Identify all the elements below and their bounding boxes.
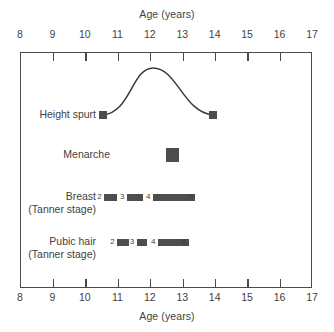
axis-tick-top-8: 8 — [17, 28, 23, 40]
tick-mark-bottom-15 — [247, 279, 248, 287]
stage-number-breast-5: 5 — [188, 193, 192, 201]
tick-mark-bottom-14 — [215, 279, 216, 287]
tick-mark-top-14 — [215, 53, 216, 61]
tick-mark-top-16 — [280, 53, 281, 61]
axis-tick-top-9: 9 — [50, 28, 56, 40]
stage-number-breast-2: 2 — [97, 193, 101, 201]
puberty-timeline-chart: Age (years) 891011121314151617 891011121… — [0, 0, 334, 332]
tick-mark-top-12 — [150, 53, 151, 61]
axis-tick-bottom-16: 16 — [274, 291, 286, 303]
axis-tick-top-14: 14 — [209, 28, 221, 40]
tick-mark-top-9 — [53, 53, 54, 61]
axis-tick-bottom-17: 17 — [306, 291, 318, 303]
stage-number-pubic-hair-2: 2 — [110, 238, 114, 246]
axis-tick-top-16: 16 — [274, 28, 286, 40]
tick-mark-bottom-12 — [150, 279, 151, 287]
tick-mark-top-10 — [85, 53, 86, 61]
stage-number-pubic-hair-5: 5 — [182, 238, 186, 246]
axis-tick-top-13: 13 — [176, 28, 188, 40]
axis-tick-bottom-13: 13 — [176, 291, 188, 303]
tick-mark-bottom-16 — [280, 279, 281, 287]
tick-mark-bottom-13 — [183, 279, 184, 287]
row-label-height-spurt: Height spurt — [39, 108, 96, 121]
tick-mark-top-15 — [247, 53, 248, 61]
height-spurt-marker-start — [99, 111, 107, 119]
stage-bar-pubic-hair-3 — [137, 239, 147, 246]
tick-mark-bottom-11 — [118, 279, 119, 287]
stage-number-breast-3: 3 — [120, 193, 124, 201]
axis-tick-bottom-12: 12 — [144, 291, 156, 303]
tick-mark-bottom-10 — [85, 279, 86, 287]
bottom-axis-title: Age (years) — [0, 310, 334, 322]
axis-tick-bottom-11: 11 — [112, 291, 123, 303]
axis-tick-bottom-9: 9 — [50, 291, 56, 303]
top-axis-tick-labels: 891011121314151617 — [0, 28, 334, 41]
axis-tick-bottom-8: 8 — [17, 291, 23, 303]
axis-tick-bottom-10: 10 — [79, 291, 91, 303]
stage-bar-breast-2 — [104, 194, 117, 201]
axis-tick-top-10: 10 — [79, 28, 91, 40]
tick-mark-top-13 — [183, 53, 184, 61]
stage-number-pubic-hair-3: 3 — [130, 238, 134, 246]
tick-mark-bottom-9 — [53, 279, 54, 287]
axis-tick-top-11: 11 — [112, 28, 123, 40]
bottom-axis-tick-labels: 891011121314151617 — [0, 291, 334, 304]
row-label-menarche: Menarche — [63, 148, 110, 161]
top-axis-title: Age (years) — [0, 8, 334, 20]
axis-tick-top-17: 17 — [306, 28, 318, 40]
row-label-breast: Breast — [66, 190, 96, 203]
axis-tick-bottom-14: 14 — [209, 291, 221, 303]
tick-mark-top-11 — [118, 53, 119, 61]
row-label-pubic-hair: Pubic hair — [49, 235, 96, 248]
axis-tick-top-15: 15 — [241, 28, 253, 40]
menarche-marker — [166, 148, 179, 162]
stage-number-pubic-hair-4: 4 — [151, 238, 155, 246]
axis-tick-top-12: 12 — [144, 28, 156, 40]
axis-tick-bottom-15: 15 — [241, 291, 253, 303]
stage-bar-breast-3 — [127, 194, 143, 201]
row-sublabel-pubic-hair: (Tanner stage) — [28, 248, 96, 261]
stage-number-breast-4: 4 — [146, 193, 150, 201]
height-spurt-marker-end — [209, 111, 217, 119]
stage-bar-pubic-hair-2 — [117, 239, 128, 246]
row-sublabel-breast: (Tanner stage) — [28, 203, 96, 216]
